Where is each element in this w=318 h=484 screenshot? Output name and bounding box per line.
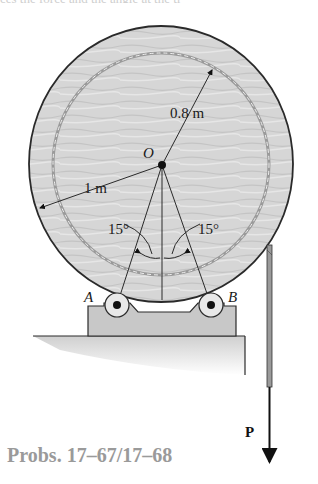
- label-inner-radius: 0.8 m: [170, 105, 205, 121]
- label-force-p: P: [245, 424, 254, 440]
- label-center-o: O: [143, 145, 154, 161]
- label-support-b: B: [228, 289, 237, 305]
- ground: [33, 336, 245, 375]
- spool-diagram: O 0.8 m 1 m 15° 15° A B P Probs. 17–67/1…: [0, 0, 318, 484]
- label-support-a: A: [83, 289, 94, 305]
- label-angle-right: 15°: [198, 221, 219, 237]
- label-outer-radius: 1 m: [84, 180, 107, 196]
- figure-caption: Probs. 17–67/17–68: [7, 444, 172, 466]
- rope: [267, 245, 272, 387]
- roller-a: [105, 293, 129, 317]
- label-angle-left: 15°: [108, 221, 129, 237]
- roller-b: [199, 293, 223, 317]
- center-point-o: [158, 161, 166, 169]
